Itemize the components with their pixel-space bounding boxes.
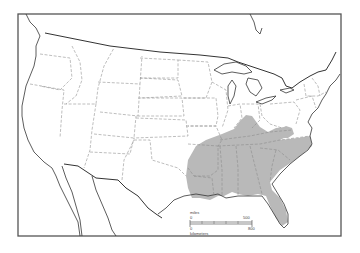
scale-bar: miles 0 500 0 800 kilometers <box>190 210 255 236</box>
scale-km-label: kilometers <box>190 231 208 236</box>
west-coastline <box>22 14 80 236</box>
us-mexico-border <box>64 164 162 218</box>
us-canada-border <box>45 33 336 88</box>
scale-miles-zero: 0 <box>190 215 193 220</box>
scale-miles-end: 500 <box>243 215 250 220</box>
mexico-gulf-coastline <box>92 176 116 236</box>
lake-michigan <box>228 80 236 104</box>
baja-coastline <box>62 166 82 236</box>
range-map: miles 0 500 0 800 kilometers <box>0 0 360 253</box>
lake-superior <box>214 62 252 74</box>
lake-ontario <box>280 88 294 93</box>
scale-km-end: 800 <box>248 226 255 231</box>
lake-huron <box>246 78 262 96</box>
lake-erie <box>256 96 276 104</box>
map-frame <box>18 14 341 236</box>
state-boundaries <box>30 46 326 196</box>
hudson-bay-edge <box>250 14 262 34</box>
